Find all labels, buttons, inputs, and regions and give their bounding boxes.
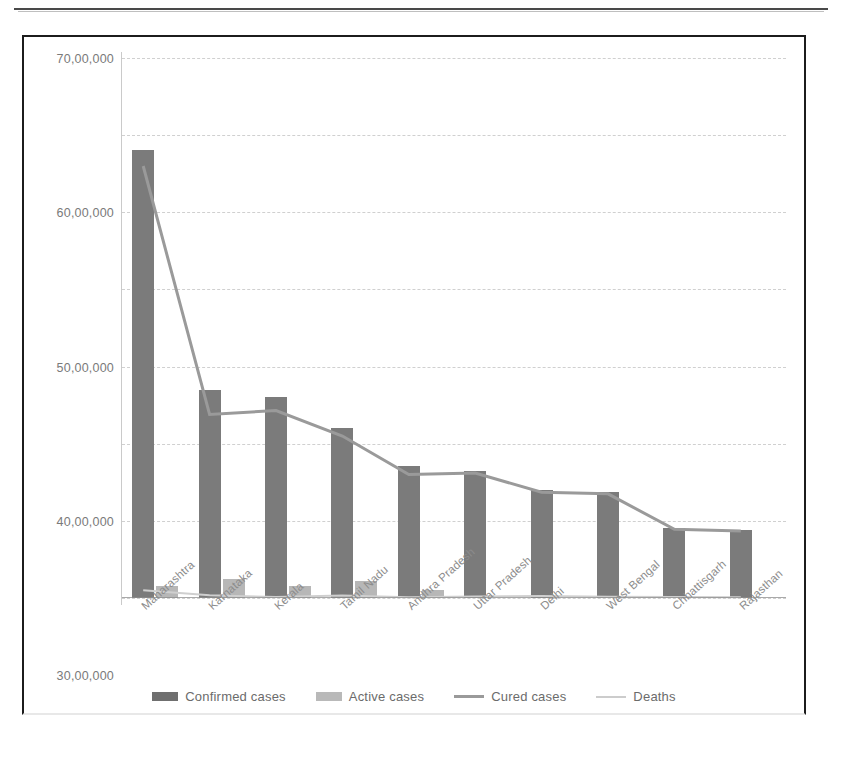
y-axis-tick-label: 50,00,000 xyxy=(57,361,114,375)
y-axis-tick-label: 60,00,000 xyxy=(57,206,114,220)
legend-swatch-active-icon xyxy=(316,692,342,701)
legend-label: Deaths xyxy=(633,689,675,704)
chart-frame: 70,00,00060,00,00050,00,00040,00,00030,0… xyxy=(22,35,806,715)
legend-label: Confirmed cases xyxy=(185,689,286,704)
legend-item-confirmed[interactable]: Confirmed cases xyxy=(152,689,286,704)
y-axis-tick-label: 70,00,000 xyxy=(57,52,114,66)
y-axis-tick-label: 30,00,000 xyxy=(57,669,114,683)
line-series-layer xyxy=(122,58,786,598)
legend-line-cured-icon xyxy=(454,695,484,698)
legend-label: Cured cases xyxy=(491,689,566,704)
legend-item-active[interactable]: Active cases xyxy=(316,689,424,704)
page-top-rule xyxy=(14,8,828,10)
page-top-rule-secondary xyxy=(18,11,824,12)
legend-label: Active cases xyxy=(349,689,424,704)
y-axis-tick-label: 40,00,000 xyxy=(57,515,114,529)
chart-legend: Confirmed casesActive casesCured casesDe… xyxy=(24,689,804,704)
legend-item-cured[interactable]: Cured cases xyxy=(454,689,566,704)
legend-swatch-confirmed-icon xyxy=(152,692,178,701)
legend-line-deaths-icon xyxy=(596,696,626,698)
legend-item-deaths[interactable]: Deaths xyxy=(596,689,675,704)
line-cured-cases xyxy=(143,166,741,531)
plot-area: 70,00,00060,00,00050,00,00040,00,00030,0… xyxy=(122,58,786,598)
